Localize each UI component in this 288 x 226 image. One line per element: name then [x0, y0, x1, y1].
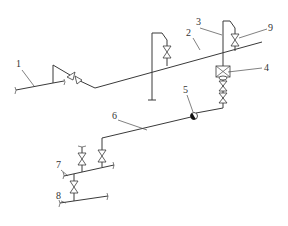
label-1: 1 — [16, 58, 21, 69]
leader-lines — [22, 28, 267, 203]
pipe-8 — [59, 193, 108, 207]
valve-icon — [219, 81, 227, 91]
left-riser — [148, 33, 167, 100]
pipeline-diagram: 1 2 3 4 5 6 7 8 9 — [0, 0, 288, 226]
pipe-1 — [15, 65, 95, 94]
label-6: 6 — [112, 110, 117, 121]
valve-icon — [219, 93, 227, 103]
valve-icon — [70, 181, 78, 193]
pipe-7 — [63, 162, 114, 179]
label-2: 2 — [186, 27, 191, 38]
label-3: 3 — [196, 16, 201, 27]
label-8: 8 — [56, 190, 61, 201]
lower-riser — [196, 80, 223, 113]
box-4-icon — [216, 66, 230, 80]
label-9: 9 — [268, 22, 273, 33]
label-4: 4 — [264, 62, 269, 73]
valve-icon — [67, 72, 82, 84]
pipe-2 — [95, 42, 262, 88]
valve-icon — [78, 153, 86, 165]
cap-icon — [78, 146, 86, 147]
label-7: 7 — [56, 159, 61, 170]
valve-icon — [98, 150, 106, 162]
valve-icon — [163, 46, 171, 58]
valve-9-icon — [231, 34, 239, 46]
label-5: 5 — [183, 84, 188, 95]
